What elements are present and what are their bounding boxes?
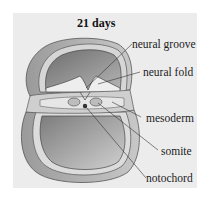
amniotic-sac xyxy=(26,38,132,96)
label-mesoderm: mesoderm xyxy=(146,112,194,124)
yolk-sac xyxy=(21,110,139,183)
label-notochord: notochord xyxy=(146,172,193,184)
label-somite: somite xyxy=(161,145,192,157)
figure-title: 21 days xyxy=(77,16,115,31)
somite-left xyxy=(68,98,80,106)
label-neural-groove: neural groove xyxy=(132,38,196,50)
label-neural-fold: neural fold xyxy=(143,66,193,78)
